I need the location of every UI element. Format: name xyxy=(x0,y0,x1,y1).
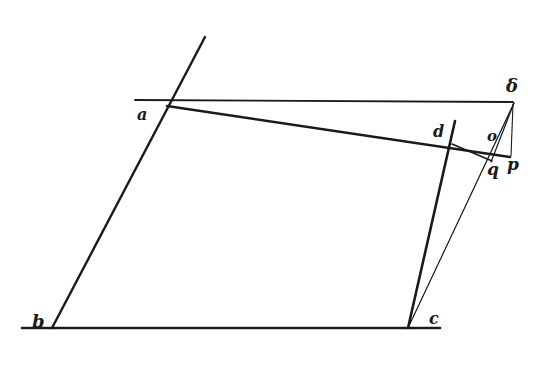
label-a: a xyxy=(137,105,147,124)
label-o: o xyxy=(487,127,497,145)
line-a-p xyxy=(167,106,510,157)
line-dc xyxy=(408,121,455,328)
line-ba xyxy=(52,37,205,328)
geometry-figure: a b c d δ o p q xyxy=(0,0,549,380)
label-q: q xyxy=(487,159,499,179)
label-d: d xyxy=(433,122,444,141)
label-b: b xyxy=(32,311,45,332)
line-a-delta xyxy=(135,100,513,102)
label-c: c xyxy=(429,309,439,328)
label-p: p xyxy=(507,154,519,174)
line-c-delta xyxy=(408,103,514,328)
label-delta: δ xyxy=(505,75,518,96)
line-delta-p xyxy=(511,104,513,156)
